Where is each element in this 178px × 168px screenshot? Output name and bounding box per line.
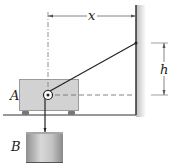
wall-anchor [135,42,138,45]
label-x: x [88,9,95,22]
wheel-left [22,111,29,115]
cable-to-wall [50,43,136,91]
arrow-up-icon [163,43,166,48]
arrow-down-icon [163,90,166,95]
arrow-right-icon [131,15,136,18]
label-h: h [160,63,168,76]
arrow-left-icon [48,15,53,18]
diagram-overlay [0,0,178,168]
wheel-right [68,111,75,115]
pulley-cart-diagram: A B x h [0,0,178,168]
label-a: A [10,89,19,102]
label-b: B [11,140,21,153]
hook-icon [44,128,47,132]
pulley-icon [44,91,53,100]
